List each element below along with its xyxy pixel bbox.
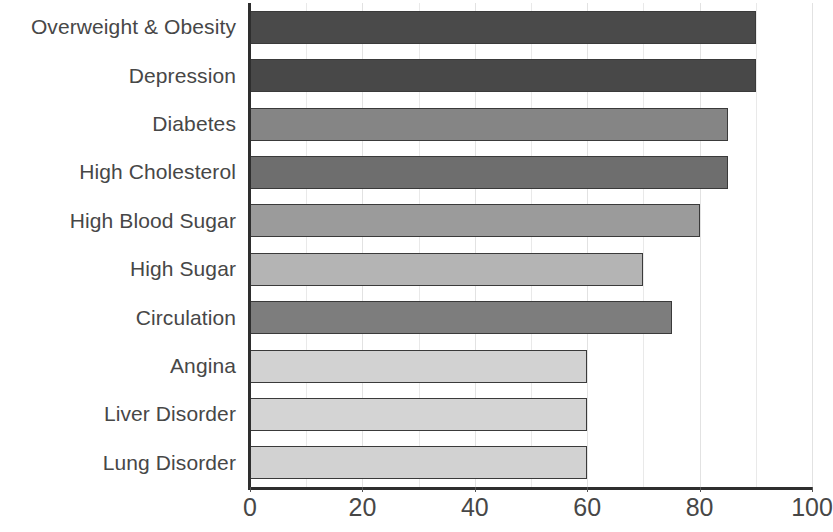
x-tick-label: 100 bbox=[791, 492, 833, 522]
category-label: Angina bbox=[0, 355, 236, 376]
category-label: Circulation bbox=[0, 307, 236, 328]
x-tick-label: 80 bbox=[686, 492, 714, 522]
x-tick-label: 0 bbox=[243, 492, 257, 522]
gridline bbox=[756, 3, 757, 487]
category-label: Depression bbox=[0, 65, 236, 86]
x-tick-label: 60 bbox=[573, 492, 601, 522]
category-label: Lung Disorder bbox=[0, 452, 236, 473]
gridline bbox=[812, 3, 813, 487]
x-tick-mark bbox=[587, 487, 588, 492]
bar-high-blood-sugar bbox=[250, 204, 700, 237]
bar-diabetes bbox=[250, 108, 728, 141]
bar-overweight-obesity bbox=[250, 11, 756, 44]
bar-high-sugar bbox=[250, 253, 643, 286]
x-tick-mark bbox=[812, 487, 813, 492]
x-tick-mark bbox=[700, 487, 701, 492]
bar-circulation bbox=[250, 301, 672, 334]
category-label: Liver Disorder bbox=[0, 403, 236, 424]
bar-angina bbox=[250, 350, 587, 383]
x-tick-label: 20 bbox=[348, 492, 376, 522]
category-label: High Cholesterol bbox=[0, 161, 236, 182]
bar-high-cholesterol bbox=[250, 156, 728, 189]
x-axis-line bbox=[248, 487, 812, 490]
plot-area bbox=[250, 3, 812, 487]
y-axis-line bbox=[248, 3, 251, 489]
category-label: Overweight & Obesity bbox=[0, 16, 236, 37]
category-axis: Overweight & ObesityDepressionDiabetesHi… bbox=[0, 3, 244, 487]
x-tick-mark bbox=[250, 487, 251, 492]
x-tick-mark bbox=[362, 487, 363, 492]
bar-depression bbox=[250, 59, 756, 92]
x-axis-tick-labels: 020406080100 bbox=[0, 492, 832, 532]
bar-liver-disorder bbox=[250, 398, 587, 431]
x-tick-label: 40 bbox=[461, 492, 489, 522]
x-tick-mark bbox=[475, 487, 476, 492]
category-label: Diabetes bbox=[0, 113, 236, 134]
category-label: High Sugar bbox=[0, 258, 236, 279]
category-label: High Blood Sugar bbox=[0, 210, 236, 231]
bar-lung-disorder bbox=[250, 446, 587, 479]
